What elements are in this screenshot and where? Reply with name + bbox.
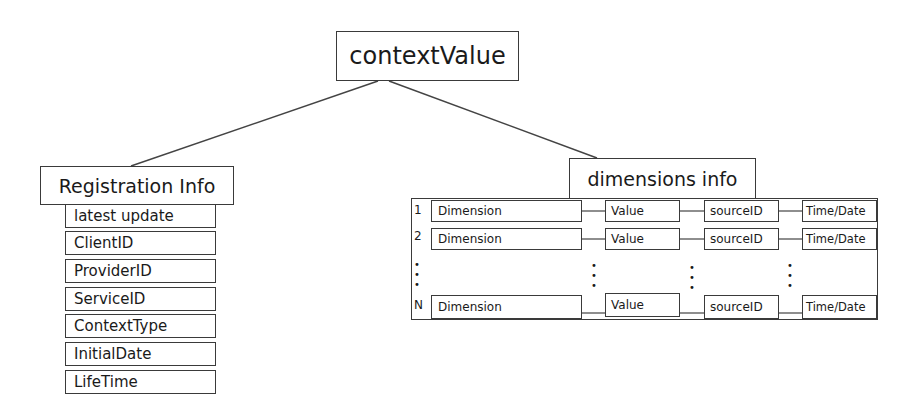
cell-label: Value bbox=[611, 232, 644, 246]
field-label: ProviderID bbox=[74, 262, 152, 280]
cell-label: sourceID bbox=[710, 300, 763, 314]
cell-dimension: Dimension bbox=[431, 295, 582, 319]
node-context-value-label: contextValue bbox=[349, 42, 505, 70]
edge-root-registration bbox=[131, 81, 378, 166]
cell-source-id: sourceID bbox=[704, 200, 779, 222]
cell-time-date: Time/Date bbox=[802, 295, 877, 319]
node-registration-info-label: Registration Info bbox=[59, 175, 216, 197]
field-label: ContextType bbox=[74, 317, 167, 335]
node-context-value: contextValue bbox=[336, 31, 519, 81]
cell-label: Value bbox=[611, 204, 644, 218]
cell-dimension: Dimension bbox=[431, 200, 582, 222]
cell-label: Time/Date bbox=[806, 232, 866, 246]
field-service-id: ServiceID bbox=[65, 287, 216, 311]
field-lifetime: LifeTime bbox=[65, 370, 216, 394]
cell-dimension: Dimension bbox=[431, 228, 582, 250]
field-client-id: ClientID bbox=[65, 231, 216, 255]
cell-label: Dimension bbox=[438, 300, 502, 314]
cell-value: Value bbox=[605, 228, 680, 250]
node-dimensions-info-label: dimensions info bbox=[588, 168, 738, 190]
node-dimensions-info: dimensions info bbox=[569, 158, 756, 199]
node-registration-info: Registration Info bbox=[40, 166, 234, 205]
cell-value: Value bbox=[605, 293, 680, 317]
cell-time-date: Time/Date bbox=[802, 200, 877, 222]
field-latest-update: latest update bbox=[65, 204, 216, 228]
ellipsis-dots: ••• bbox=[787, 261, 793, 291]
cell-label: sourceID bbox=[710, 204, 763, 218]
cell-source-id: sourceID bbox=[704, 228, 779, 250]
row-index: 1 bbox=[414, 203, 422, 217]
ellipsis-dots: ••• bbox=[414, 260, 420, 290]
cell-source-id: sourceID bbox=[704, 295, 779, 319]
field-context-type: ContextType bbox=[65, 314, 216, 338]
cell-label: Dimension bbox=[438, 204, 502, 218]
field-initial-date: InitialDate bbox=[65, 342, 216, 366]
ellipsis-dots: ••• bbox=[689, 263, 695, 293]
field-label: LifeTime bbox=[74, 373, 138, 391]
cell-label: Value bbox=[611, 298, 644, 312]
ellipsis-dots: ••• bbox=[591, 261, 597, 291]
field-label: ServiceID bbox=[74, 290, 145, 308]
edge-root-dimensions bbox=[389, 81, 597, 158]
cell-label: Dimension bbox=[438, 232, 502, 246]
field-label: InitialDate bbox=[74, 345, 151, 363]
field-label: latest update bbox=[74, 207, 174, 225]
row-index: N bbox=[414, 298, 423, 312]
cell-value: Value bbox=[605, 200, 680, 222]
cell-label: Time/Date bbox=[806, 300, 866, 314]
cell-time-date: Time/Date bbox=[802, 228, 877, 250]
cell-label: sourceID bbox=[710, 232, 763, 246]
cell-label: Time/Date bbox=[806, 204, 866, 218]
field-label: ClientID bbox=[74, 234, 133, 252]
field-provider-id: ProviderID bbox=[65, 259, 216, 283]
row-index: 2 bbox=[414, 229, 422, 243]
